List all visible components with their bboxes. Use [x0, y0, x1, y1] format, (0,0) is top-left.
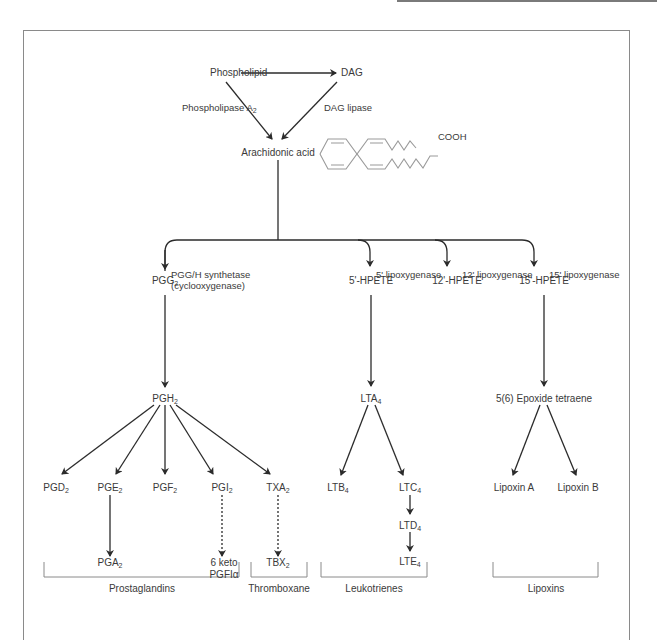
- label-phospholipase-a2: Phospholipase A2: [182, 102, 257, 113]
- label-cooh: COOH: [438, 131, 467, 142]
- node-pgg2: PGG2: [152, 275, 178, 287]
- node-tbx2: TBX2: [266, 557, 289, 569]
- arrow-pgh-pgi: [170, 405, 213, 474]
- node-txa2: TXA2: [266, 482, 289, 494]
- node-lipoxin-a: Lipoxin A: [494, 482, 535, 494]
- branch-12lox: [435, 240, 447, 266]
- node-ltb4: LTB4: [327, 482, 349, 494]
- node-lte4: LTE4: [399, 556, 421, 568]
- arrow-lta-ltc: [375, 405, 403, 475]
- node-lta4: LTA4: [361, 393, 382, 405]
- node-12-hpete: 12'-HPETE: [432, 275, 482, 287]
- node-phospholipid: Phospholipid: [210, 67, 267, 79]
- arrow-pgh-pgd: [62, 405, 154, 474]
- node-ltd4: LTD4: [399, 520, 421, 532]
- branch-15lox: [358, 240, 534, 266]
- node-pge2: PGE2: [97, 482, 122, 494]
- node-epoxide-tetraene: 5(6) Epoxide tetraene: [496, 393, 592, 405]
- node-6-keto-pgf1a: 6 ketoPGFIα: [209, 557, 238, 581]
- node-dag: DAG: [341, 67, 363, 79]
- arrow-epoxide-lipoxin-b: [547, 405, 576, 475]
- arachidonic-acid-structure: [320, 139, 438, 169]
- node-pga2: PGA2: [97, 557, 122, 569]
- label-dag-lipase: DAG lipase: [324, 102, 372, 113]
- bracket-lipoxins: [493, 562, 598, 577]
- group-brackets: [44, 562, 598, 577]
- label-cox: PGG/H synthetase(cyclooxygenase): [171, 269, 250, 291]
- group-label-thromboxane: Thromboxane: [248, 583, 310, 594]
- arrow-epoxide-lipoxin-a: [513, 405, 540, 475]
- node-15-hpete: 15'-HPETE: [519, 275, 569, 287]
- node-lipoxin-b: Lipoxin B: [557, 482, 598, 494]
- branch-5lox: [165, 240, 370, 271]
- node-arachidonic-acid: Arachidonic acid: [241, 147, 314, 159]
- node-pgi2: PGI2: [211, 482, 232, 494]
- node-pgf2: PGF2: [153, 482, 177, 494]
- node-5-hpete: 5'-HPETE: [349, 275, 393, 287]
- node-pgd2: PGD2: [43, 482, 69, 494]
- group-label-prostaglandins: Prostaglandins: [109, 583, 175, 594]
- arrow-pgh-txa: [176, 405, 270, 474]
- group-label-leukotrienes: Leukotrienes: [345, 583, 402, 594]
- node-ltc4: LTC4: [399, 482, 421, 494]
- arrow-pgh-pge: [116, 405, 160, 474]
- group-label-lipoxins: Lipoxins: [528, 583, 565, 594]
- arrow-lta-ltb: [341, 405, 368, 475]
- node-pgh2: PGH2: [152, 393, 178, 405]
